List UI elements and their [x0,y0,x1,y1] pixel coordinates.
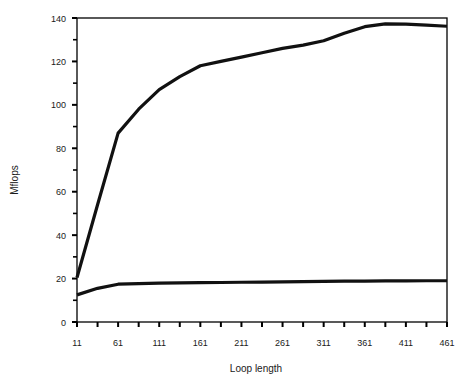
y-tick-label: 20 [56,274,66,284]
x-tick-label: 311 [316,338,330,348]
x-tick-label: 11 [72,338,81,348]
x-tick-label: 211 [234,338,248,348]
x-tick-label: 61 [113,338,123,348]
x-tick-label: 461 [439,338,454,348]
y-tick-label: 100 [51,100,66,110]
x-tick-label: 261 [275,338,290,348]
x-tick-label: 411 [399,338,413,348]
y-tick-label: 140 [51,14,66,24]
y-tick-label: 0 [61,318,66,328]
chart-container: 020406080100120140 116111116121126131136… [0,0,465,386]
x-tick-label: 111 [152,338,166,348]
y-tick-label: 60 [56,187,66,197]
y-tick-label: 120 [51,57,66,67]
y-tick-label: 80 [56,144,66,154]
y-tick-label: 40 [56,231,66,241]
x-axis-title: Loop length [230,363,282,374]
y-axis-title: Mflops [9,165,20,194]
x-tick-label: 361 [357,338,372,348]
line-chart: 020406080100120140 116111116121126131136… [0,0,465,386]
x-tick-label: 161 [193,338,208,348]
